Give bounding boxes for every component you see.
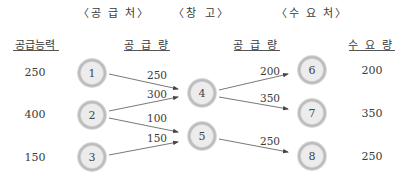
node-5-label: 5 [199, 130, 206, 143]
edge-label-2-5: 100 [147, 112, 167, 124]
edge-2-5 [109, 118, 178, 132]
edge-label-3-5: 150 [147, 132, 167, 144]
edge-label-1-4: 250 [147, 69, 167, 81]
edge-label-2-4: 300 [147, 88, 167, 100]
node-3: 3 [77, 142, 107, 172]
node-5: 5 [187, 121, 217, 151]
edge-1-4 [109, 74, 178, 89]
edge-2-4 [109, 97, 178, 111]
node-7: 7 [297, 98, 327, 128]
node-2: 2 [77, 100, 107, 130]
node-6: 6 [297, 55, 327, 85]
edge-label-4-6: 200 [260, 65, 280, 77]
node-3-label: 3 [89, 151, 96, 164]
node-1-label: 1 [89, 67, 96, 80]
transport-network-diagram: 〈공 급 처〉 〈창 고〉 〈수 요 처〉 공급능력 공 급 량 공 급 량 수… [0, 0, 409, 182]
edge-label-5-8: 250 [260, 135, 280, 147]
node-8: 8 [297, 141, 327, 171]
node-6-label: 6 [309, 64, 316, 77]
node-4: 4 [187, 78, 217, 108]
node-4-label: 4 [199, 87, 206, 100]
node-1: 1 [77, 58, 107, 88]
node-7-label: 7 [309, 107, 316, 120]
node-8-label: 8 [309, 150, 316, 163]
node-2-label: 2 [89, 109, 96, 122]
edge-3-5 [109, 142, 178, 155]
nodes: 1 2 3 4 5 6 7 [77, 55, 327, 172]
network-graph: 250 300 100 150 200 350 250 1 2 3 [0, 0, 409, 182]
edge-label-4-7: 350 [260, 92, 280, 104]
